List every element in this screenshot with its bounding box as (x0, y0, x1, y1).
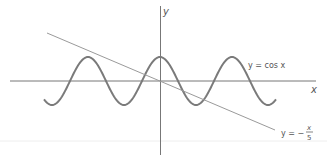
line-label-prefix: y = − (281, 129, 304, 138)
x-axis-label: x (310, 84, 317, 95)
line-label-denominator: 5 (307, 134, 311, 142)
line-label-numerator: x (306, 124, 312, 132)
cos-label: y = cos x (248, 61, 286, 70)
graph-canvas: y x y = cos x y = − x 5 (0, 0, 327, 165)
y-axis-label: y (162, 6, 170, 17)
